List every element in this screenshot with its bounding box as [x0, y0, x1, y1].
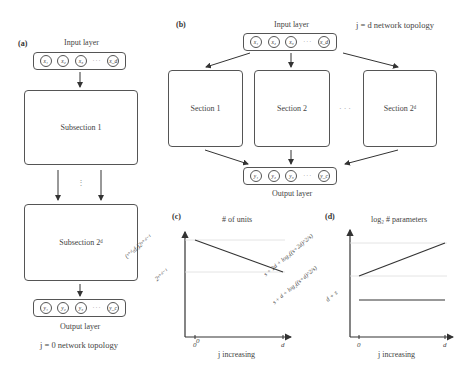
arrow-section2d-to-output	[345, 150, 398, 164]
arrow-input-to-section2d	[343, 53, 398, 67]
diagram-lines	[0, 0, 475, 372]
panel-d-params-line	[359, 243, 445, 276]
arrow-input-to-section1	[206, 53, 250, 67]
arrow-section1-to-output	[205, 150, 248, 164]
panel-c-units-line	[195, 240, 283, 272]
